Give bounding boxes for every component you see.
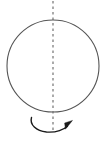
rotation-diagram <box>0 0 105 145</box>
figure-container <box>0 0 105 145</box>
